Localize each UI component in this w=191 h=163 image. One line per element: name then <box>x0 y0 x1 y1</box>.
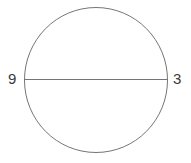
label-right-endpoint: 3 <box>173 71 181 86</box>
circle-diagram-canvas: 9 3 <box>0 0 191 163</box>
circle-diagram-svg <box>0 0 191 163</box>
label-left-endpoint: 9 <box>8 71 16 86</box>
